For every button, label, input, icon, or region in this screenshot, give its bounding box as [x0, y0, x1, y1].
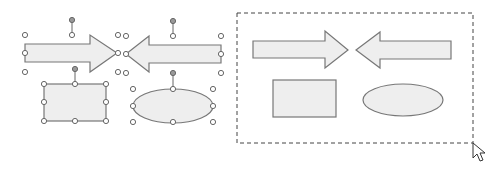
right-shape-group — [237, 13, 473, 143]
rotate-handle[interactable] — [69, 17, 74, 22]
rotate-handle[interactable] — [170, 70, 175, 75]
mouse-pointer-icon — [473, 143, 485, 161]
left-arrow-shape[interactable] — [123, 18, 223, 75]
rectangle-shape[interactable] — [41, 66, 108, 123]
right-arrow-shape[interactable] — [253, 31, 348, 68]
ellipse-shape[interactable] — [363, 84, 443, 116]
rotate-handle[interactable] — [72, 66, 77, 71]
right-arrow-shape[interactable] — [22, 17, 120, 74]
rotate-handle[interactable] — [170, 18, 175, 23]
marquee-selection-box[interactable] — [237, 13, 473, 143]
drawing-canvas[interactable] — [0, 0, 504, 173]
rectangle-shape[interactable] — [273, 80, 336, 117]
ellipse-shape[interactable] — [130, 70, 215, 124]
left-arrow-shape[interactable] — [356, 32, 451, 68]
left-shape-group — [22, 17, 223, 124]
